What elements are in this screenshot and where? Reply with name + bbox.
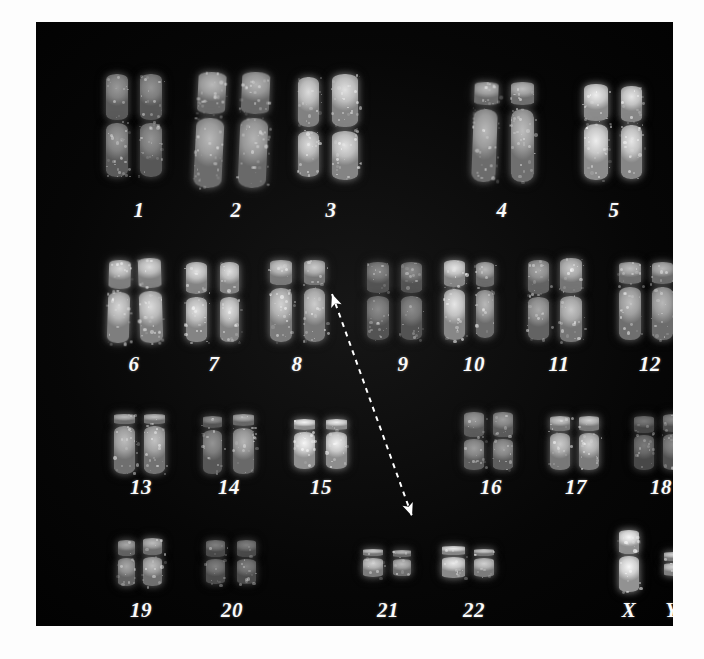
grain-speck [368,566,369,567]
grain-speck [311,281,313,283]
grain-speck [626,591,628,593]
grain-speck [379,271,381,273]
grain-speck [160,148,163,151]
grain-speck [475,271,477,273]
grain-speck [578,426,581,429]
chromosome-15-a [294,419,315,469]
grain-speck [259,108,262,111]
grain-speck [418,273,421,276]
grain-speck [570,445,573,448]
grain-speck [331,461,332,462]
grain-speck [369,321,372,324]
chromosome-9-b [401,262,422,340]
grain-speck [297,91,298,92]
grain-speck [381,320,382,321]
grain-speck [586,424,587,425]
grain-speck [202,433,205,436]
grain-speck [198,299,200,301]
grain-speck [212,114,214,116]
grain-speck [583,435,586,438]
grain-speck [356,128,358,130]
grain-speck [457,322,459,324]
grain-speck [190,342,193,345]
grain-speck [405,552,407,554]
grain-speck [665,429,668,432]
grain-speck [672,315,673,318]
grain-speck [225,554,227,556]
grain-speck [551,326,554,329]
grain-speck [116,575,119,578]
grain-speck [153,121,156,124]
grain-speck [113,456,117,460]
grain-speck [570,268,574,272]
chromosome-3-a [298,77,319,177]
grain-speck [455,560,458,563]
chromosome-label-12: 12 [620,352,673,377]
grain-speck [489,83,491,85]
grain-speck [307,171,309,173]
grain-speck [156,428,157,429]
chromosome-2-b [238,71,271,188]
grain-speck [418,327,419,328]
grain-speck [356,113,359,116]
grain-speck [164,561,167,564]
grain-speck [347,113,350,116]
chromosome-11-b [560,258,582,342]
grain-speck [600,112,602,114]
grain-speck [128,581,130,583]
chromatid-arm [114,414,135,424]
grain-speck [543,265,544,266]
grain-speck [477,287,480,290]
grain-speck [126,438,128,440]
grain-speck [482,309,485,312]
grain-speck [563,450,565,452]
grain-speck [254,427,256,429]
grain-speck [504,426,507,429]
chromosome-18-a [634,416,654,470]
chromatid-arm [471,108,498,182]
grain-speck [381,265,383,267]
grain-speck [550,424,551,425]
grain-speck [671,467,673,470]
grain-speck [375,340,376,341]
grain-speck [641,96,643,98]
chromatid-arm [206,559,225,584]
grain-speck [124,342,128,346]
grain-speck [235,441,238,444]
grain-speck [567,272,570,275]
grain-speck [166,465,168,467]
grain-speck [664,558,667,561]
grain-speck [493,551,496,554]
grain-speck [312,158,314,160]
grain-speck [355,134,357,136]
grain-speck [120,262,123,265]
chromatid-arm [474,549,494,556]
grain-speck [550,285,553,288]
grain-speck [106,166,107,167]
grain-speck [239,583,242,586]
grain-speck [628,295,630,297]
grain-speck [121,438,123,440]
grain-speck [548,431,549,432]
grain-speck [642,102,644,104]
grain-speck [602,180,604,182]
grain-speck [388,314,389,315]
grain-speck [459,286,461,288]
grain-speck [670,439,672,441]
chromosome-19-a [118,540,135,586]
grain-speck [594,157,596,159]
grain-speck [144,171,145,172]
grain-speck [199,102,201,104]
chromosome-20-a [206,540,225,584]
chromosome-1-b [140,74,162,177]
chromosome-6-a [107,260,132,344]
grain-speck [161,158,164,161]
grain-speck [336,153,339,156]
chromosome-2-a [193,71,227,188]
grain-speck [306,132,309,135]
grain-speck [125,130,127,132]
grain-speck [221,100,224,103]
grain-speck [664,464,668,468]
chromosome-1-a [106,74,128,177]
grain-speck [649,449,650,450]
